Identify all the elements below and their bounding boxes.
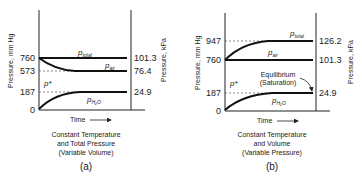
left-axis-title: Pressure, mm Hg [7, 33, 15, 88]
tick-101-3: 101.3 [134, 53, 157, 63]
right-axis-title: Pressure, kPa [347, 40, 354, 84]
tick-187: 187 [206, 88, 221, 98]
tick-187: 187 [20, 87, 35, 97]
tick-76-4: 76.4 [134, 66, 152, 76]
tick-101-3: 101.3 [319, 55, 342, 65]
label-p-air: pair [267, 48, 278, 58]
caption-line-2: and Volume [254, 140, 291, 147]
panel-b: 947 760 187 0 126.2 101.3 24.9 Pressure,… [194, 13, 354, 172]
label-p-h2o: pH₂O [271, 96, 286, 106]
right-axis-title: Pressure, kPa [160, 38, 167, 82]
tick-126-2: 126.2 [319, 36, 342, 46]
tick-0: 0 [216, 106, 221, 116]
label-p-total: ptotal [77, 48, 93, 58]
tick-760: 760 [206, 55, 221, 65]
label-p-star: p* [43, 79, 52, 88]
left-axis-title: Pressure, mm Hg [194, 35, 202, 90]
caption-line-1: Constant Temperature [51, 131, 120, 139]
caption-line-2: and Total Pressure [57, 140, 115, 147]
panel-label: (a) [80, 161, 92, 172]
label-p-star: p* [229, 79, 238, 88]
tick-24-9: 24.9 [134, 87, 152, 97]
label-p-air: pair [104, 61, 115, 71]
caption-line-3: (Variable Pressure) [242, 149, 302, 157]
diagram: 760 573 187 0 101.3 76.4 24.9 Pressure, … [0, 0, 362, 181]
tick-573: 573 [20, 66, 35, 76]
p-h2o-curve [39, 92, 127, 109]
tick-24-9: 24.9 [319, 88, 337, 98]
panel-label: (b) [266, 161, 278, 172]
label-p-total: ptotal [289, 29, 305, 39]
x-axis-title: Time [257, 117, 272, 124]
p-h2o-curve [225, 93, 313, 110]
tick-947: 947 [206, 36, 221, 46]
annotation-line-1: Equilibrium [261, 71, 296, 79]
x-axis-title: Time [70, 116, 85, 123]
tick-0: 0 [30, 105, 35, 115]
tick-760: 760 [20, 53, 35, 63]
label-p-h2o: pH₂O [86, 95, 101, 105]
panel-a: 760 573 187 0 101.3 76.4 24.9 Pressure, … [7, 10, 167, 172]
annotation-line-2: (Saturation) [260, 79, 297, 87]
caption-line-3: (Variable Volume) [58, 149, 113, 157]
caption-line-1: Constant Temperature [237, 131, 306, 139]
